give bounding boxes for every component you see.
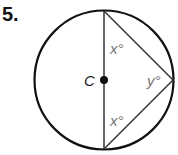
center-point (100, 76, 108, 84)
circle-diagram: C x° y° x° (0, 0, 178, 155)
angle-label-bottom: x° (109, 112, 124, 129)
angle-label-top: x° (109, 40, 124, 57)
center-label: C (84, 72, 95, 89)
angle-label-right: y° (146, 72, 161, 89)
